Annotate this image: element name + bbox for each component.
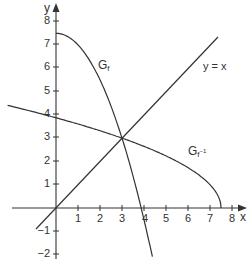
y-tick-label: 4 bbox=[36, 108, 50, 119]
y-tick-label: 8 bbox=[36, 15, 50, 26]
x-tick-label: 7 bbox=[207, 213, 213, 224]
label-y-equals-x: y = x bbox=[203, 61, 227, 72]
line-y-equals-x bbox=[36, 37, 218, 229]
x-tick-label: 4 bbox=[142, 213, 148, 224]
y-tick-label: 2 bbox=[36, 155, 50, 166]
x-tick-label: 2 bbox=[97, 213, 103, 224]
label-gf-inverse: Gf−1 bbox=[188, 145, 206, 159]
y-tick-label: 3 bbox=[36, 131, 50, 142]
y-tick-label: −1 bbox=[36, 225, 50, 236]
x-tick-label: 8 bbox=[229, 213, 235, 224]
x-tick-label: 5 bbox=[163, 213, 169, 224]
y-axis-label: y bbox=[44, 2, 50, 14]
x-axis-label: x bbox=[240, 211, 246, 223]
y-axis-arrow-icon bbox=[53, 3, 60, 12]
x-tick-label: 3 bbox=[119, 213, 125, 224]
y-tick-label: 7 bbox=[36, 38, 50, 49]
x-tick-label: 6 bbox=[185, 213, 191, 224]
y-tick-label: 1 bbox=[36, 178, 50, 189]
y-tick-label: 5 bbox=[36, 85, 50, 96]
label-gf: Gf bbox=[98, 59, 110, 73]
y-tick-label: 6 bbox=[36, 61, 50, 72]
x-tick-label: 1 bbox=[75, 213, 81, 224]
y-tick-label: −2 bbox=[36, 248, 50, 259]
